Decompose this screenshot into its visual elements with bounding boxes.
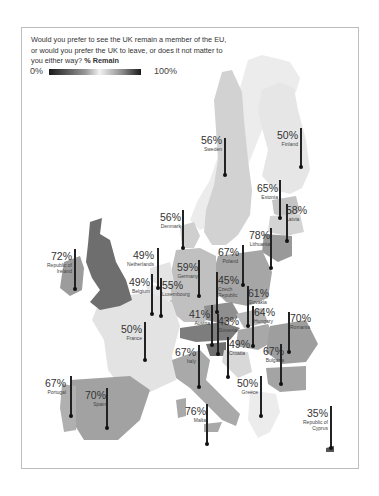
country-name: Spain: [82, 402, 106, 407]
pin-spain: [106, 388, 108, 428]
label-hungary: 64% Hungary: [254, 307, 282, 324]
country-name: Finland: [274, 142, 298, 147]
value: 43%: [218, 316, 248, 327]
value: 59%: [176, 262, 198, 273]
pin-ireland: [74, 249, 76, 289]
label-croatia: 49% Croatia: [229, 339, 255, 356]
value: 67%: [174, 347, 196, 358]
value: 45%: [218, 275, 248, 286]
country-name: Luxembourg: [162, 292, 194, 297]
pin-sweden: [224, 138, 226, 175]
value: 50%: [118, 324, 142, 335]
label-netherlands: 49% Netherlands: [120, 250, 154, 267]
country-name: Italy: [174, 359, 196, 364]
label-ireland: 72% Republic of Ireland: [42, 251, 72, 274]
label-luxembourg: 55% Luxembourg: [162, 280, 194, 297]
value: 56%: [153, 212, 181, 223]
country-name: Germany: [176, 274, 198, 279]
value: 78%: [242, 230, 270, 241]
country-bulgaria: [266, 366, 306, 392]
country-name: Estonia: [252, 195, 278, 200]
pin-croatia: [227, 337, 229, 377]
pin-denmark: [182, 210, 184, 248]
value: 50%: [274, 130, 298, 141]
pin-estonia: [279, 180, 281, 218]
pin-lithuania: [270, 228, 272, 268]
country-name: Ireland: [42, 269, 72, 274]
country-name: Croatia: [229, 351, 255, 356]
country-name: Republic of: [300, 420, 328, 425]
country-spain: [70, 376, 150, 440]
country-name: Denmark: [153, 224, 181, 229]
country-name: Belgium: [124, 289, 150, 294]
label-lithuania: 78% Lithuania: [242, 230, 270, 247]
value: 41%: [186, 309, 210, 320]
country-name: Slovakia: [248, 300, 272, 305]
country-name: Cyprus: [300, 426, 328, 431]
value: 49%: [229, 339, 255, 350]
value: 64%: [254, 307, 282, 318]
label-slovakia: 61% Slovakia: [248, 288, 272, 305]
value: 72%: [42, 251, 72, 262]
label-france: 50% France: [118, 324, 142, 341]
pin-italy: [198, 345, 200, 387]
pin-czech: [216, 272, 218, 312]
value: 49%: [124, 277, 150, 288]
value: 55%: [162, 280, 194, 291]
country-name: Greece: [236, 390, 258, 395]
pin-germany: [198, 260, 200, 296]
label-poland: 67% Poland: [218, 247, 238, 264]
pin-romania: [288, 312, 290, 352]
pin-belgium: [151, 274, 153, 314]
value: 58%: [286, 205, 310, 216]
value: 50%: [236, 378, 258, 389]
pin-malta: [206, 404, 208, 444]
pin-latvia: [286, 204, 288, 241]
label-czech: 45% Czech Republic: [218, 275, 248, 298]
pin-france: [144, 322, 146, 360]
pin-greece: [260, 376, 262, 416]
country-greece: [248, 390, 280, 438]
country-name: Republic of: [42, 263, 72, 268]
value: 35%: [300, 408, 328, 419]
country-name: Portugal: [42, 390, 66, 395]
value: 65%: [252, 183, 278, 194]
label-latvia: 58% Latvia: [286, 205, 310, 222]
country-name: France: [118, 336, 142, 341]
country-name: Republic: [218, 293, 248, 298]
pin-bulgaria: [280, 344, 282, 384]
country-name: Malta: [182, 418, 206, 423]
label-belgium: 49% Belgium: [124, 277, 150, 294]
pin-austria: [211, 305, 213, 345]
country-name: Slovenia: [218, 328, 248, 333]
label-romania: 70% Romania: [290, 313, 318, 330]
country-name: Poland: [218, 259, 238, 264]
country-name: Latvia: [286, 217, 310, 222]
label-malta: 76% Malta: [182, 406, 206, 423]
label-denmark: 56% Denmark: [153, 212, 181, 229]
country-name: Hungary: [254, 319, 282, 324]
country-name: Austria: [186, 321, 210, 326]
value: 56%: [196, 135, 222, 146]
label-cyprus: 35% Republic of Cyprus: [300, 408, 328, 431]
country-name: Lithuania: [242, 242, 270, 247]
pin-finland: [300, 128, 302, 167]
country-name: Sweden: [196, 147, 222, 152]
value: 49%: [120, 250, 154, 261]
value: 76%: [182, 406, 206, 417]
value: 70%: [82, 390, 106, 401]
pin-netherlands: [157, 248, 159, 288]
value: 67%: [42, 378, 66, 389]
label-spain: 70% Spain: [82, 390, 106, 407]
country-name: Netherlands: [120, 262, 154, 267]
country-name: Romania: [290, 325, 318, 330]
value: 61%: [248, 288, 272, 299]
label-germany: 59% Germany: [176, 262, 198, 279]
label-finland: 50% Finland: [274, 130, 298, 147]
label-slovenia: 43% Slovenia: [218, 316, 248, 333]
pin-portugal: [70, 376, 72, 416]
country-name: Czech: [218, 287, 248, 292]
label-italy: 67% Italy: [174, 347, 196, 364]
pin-slovenia: [217, 314, 219, 354]
pin-cyprus: [330, 406, 332, 448]
